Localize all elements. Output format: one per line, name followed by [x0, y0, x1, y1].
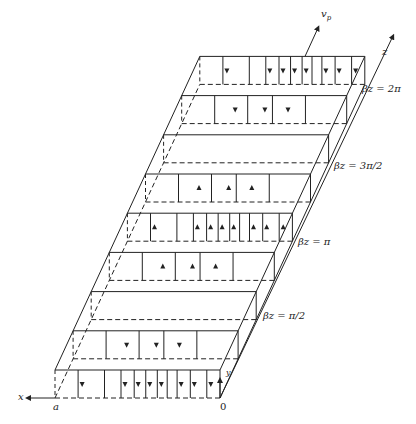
field-slab	[73, 331, 238, 359]
origin-label: 0	[220, 401, 226, 412]
phase-label-two-pi: βz = 2π	[362, 83, 401, 94]
field-slab	[109, 252, 274, 280]
x-axis-label: x	[18, 391, 24, 402]
z-axis-label: z	[382, 46, 387, 57]
phase-label-pi-half: βz = π/2	[263, 310, 305, 321]
y-axis-label: y	[226, 368, 231, 377]
phase-velocity-label: vp	[321, 8, 331, 22]
field-slab	[127, 213, 292, 241]
field-slab	[91, 292, 256, 320]
phase-label-pi: βz = π	[298, 236, 330, 247]
a-label: a	[53, 401, 59, 412]
field-slab	[200, 56, 365, 84]
field-slabs	[55, 56, 365, 398]
field-slab	[182, 96, 347, 124]
field-slab	[146, 174, 311, 202]
field-slab	[55, 370, 220, 398]
field-slab	[164, 135, 329, 163]
waveguide-diagram	[0, 0, 416, 424]
phase-label-three-pi-half: βz = 3π/2	[334, 160, 382, 171]
